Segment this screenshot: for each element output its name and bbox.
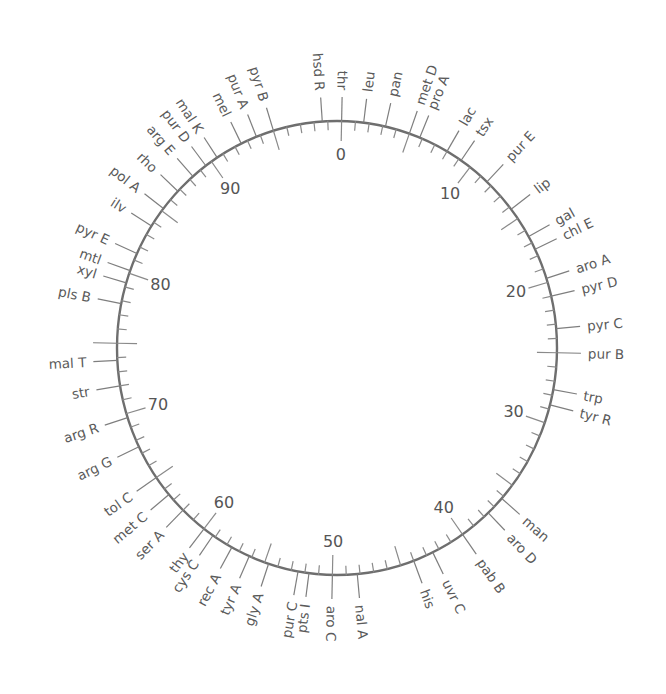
minor-tick: [239, 543, 243, 552]
gene-label: leu: [359, 70, 377, 92]
medium-tick: [273, 130, 279, 150]
tick-marks: [117, 121, 558, 576]
gene-marker-line: [117, 447, 139, 457]
scale-number: 0: [336, 145, 346, 164]
gene-label: thr: [334, 70, 350, 90]
gene-label: tyr R: [578, 405, 613, 429]
gene-label: pol A: [107, 162, 144, 196]
minor-tick: [485, 185, 492, 192]
minor-tick: [526, 445, 535, 449]
minor-tick: [227, 537, 232, 545]
minor-tick: [435, 541, 439, 549]
gene-label: aro A: [573, 250, 612, 276]
gene-marker-line: [151, 495, 169, 510]
gene-marker-line: [557, 353, 581, 354]
gene-marker-line: [261, 564, 268, 587]
scale-number: 80: [150, 275, 170, 294]
minor-tick: [478, 510, 484, 517]
minor-tick: [140, 247, 149, 251]
gene-marker-line: [332, 575, 333, 599]
minor-tick: [513, 469, 521, 474]
gene-marker-line: [240, 556, 250, 578]
gene-label: pab B: [474, 555, 509, 596]
gene-marker-line: [321, 98, 323, 122]
scale-number: 30: [503, 402, 523, 421]
minor-tick: [431, 144, 435, 153]
minor-tick: [235, 146, 239, 154]
minor-tick: [223, 153, 228, 161]
minor-tick: [475, 176, 481, 183]
gene-marker-line: [199, 535, 213, 555]
minor-tick: [468, 519, 474, 526]
gene-marker-line: [96, 386, 120, 390]
gene-marker-line: [447, 131, 459, 152]
minor-tick: [419, 138, 423, 147]
gene-label: tol C: [101, 489, 136, 520]
minor-tick: [524, 243, 532, 247]
gene-label: pyr E: [74, 219, 112, 248]
gene-marker-line: [511, 195, 530, 210]
gene-marker-line: [115, 244, 137, 254]
minor-tick: [443, 151, 448, 159]
gene-marker-line: [98, 299, 122, 304]
gene-label: pur B: [588, 345, 625, 362]
gene-marker-line: [385, 103, 390, 126]
major-tick: [528, 282, 548, 288]
minor-tick: [547, 366, 556, 367]
gene-label: ilv: [108, 194, 130, 216]
minor-tick: [130, 424, 139, 427]
minor-tick: [164, 483, 171, 489]
gene-marker-lines: [93, 97, 581, 599]
unlabeled-marker-line: [93, 343, 117, 344]
gene-label: trp: [582, 387, 604, 406]
gene-label: str: [71, 383, 92, 402]
minor-tick: [148, 461, 156, 466]
minor-tick: [494, 196, 501, 202]
major-tick: [458, 167, 470, 183]
minor-tick: [488, 501, 495, 508]
minor-tick: [142, 449, 150, 453]
gene-label: arg G: [74, 453, 114, 483]
minor-tick: [200, 170, 206, 177]
gene-marker-line: [488, 513, 505, 530]
minor-tick: [530, 255, 539, 259]
gene-marker-line: [192, 146, 206, 165]
gene-marker-line: [535, 239, 557, 249]
gene-marker-line: [266, 108, 273, 131]
gene-marker-line: [364, 99, 367, 123]
gene-label: lip: [531, 174, 554, 196]
genetic-map: 0102030405060708090 thrleupanmet Dpro Al…: [0, 0, 666, 694]
minor-tick: [252, 549, 256, 558]
gene-marker-line: [409, 111, 417, 134]
major-tick: [129, 273, 148, 280]
gene-label: arg R: [62, 420, 101, 446]
medium-tick: [403, 133, 410, 152]
gene-label: mal T: [48, 354, 87, 372]
gene-labels: thrleupanmet Dpro Alactsxpur Elipgalchl …: [48, 52, 624, 641]
gene-marker-line: [551, 291, 574, 296]
gene-label: pyr C: [586, 315, 623, 334]
gene-marker-line: [487, 164, 503, 182]
scale-number: 70: [148, 395, 168, 414]
minor-tick: [170, 199, 177, 205]
gene-marker-line: [248, 114, 257, 136]
medium-tick: [156, 466, 173, 478]
gene-marker-line: [294, 571, 298, 595]
genetic-map-page: 0102030405060708090 thrleupanmet Dpro Al…: [0, 0, 666, 694]
scale-number: 10: [440, 184, 460, 203]
gene-marker-line: [502, 498, 520, 514]
gene-marker-line: [461, 141, 475, 161]
major-tick: [204, 513, 216, 529]
gene-marker-line: [161, 175, 178, 192]
gene-marker-line: [131, 213, 151, 226]
medium-tick: [496, 473, 512, 485]
minor-tick: [517, 230, 525, 235]
major-tick: [526, 416, 545, 423]
gene-marker-line: [166, 510, 183, 527]
gene-marker-line: [546, 271, 569, 278]
gene-marker-line: [231, 122, 241, 144]
minor-tick: [454, 159, 459, 167]
minor-tick: [215, 530, 220, 538]
gene-marker-line: [342, 97, 343, 121]
minor-tick: [134, 260, 143, 264]
